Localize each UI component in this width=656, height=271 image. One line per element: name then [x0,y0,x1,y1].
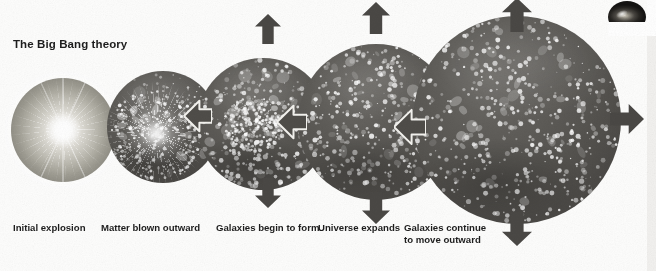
galaxy-core [616,8,630,19]
stage-caption-initial-explosion: Initial explosion [13,222,86,234]
expansion-arrow-up-stage3 [255,14,281,48]
inset-white-mask-vertical [647,0,656,26]
stage-transition-arrow-3-to-2 [277,104,307,144]
stage-caption-matter-blown-outward: Matter blown outward [101,222,200,234]
stage-caption-universe-expands: Universe expands [318,222,400,234]
expansion-arrow-right-stage5 [610,104,644,138]
matter-burst-core [120,98,192,170]
stage-caption-galaxies-begin-to-form: Galaxies begin to form [216,222,319,234]
page-title: The Big Bang theory [13,38,127,50]
explosion-core [45,112,81,148]
stage-sphere-galaxies-continue-to-move-outward [413,16,621,224]
expansion-arrow-down-stage3 [255,178,281,212]
stage-caption-galaxies-continue-to-move-outward: Galaxies continue to move outward [404,222,486,245]
stage-transition-arrow-4-to-3 [394,108,426,150]
expansion-arrow-up-stage5 [502,0,532,36]
expansion-arrow-down-stage5 [502,212,532,250]
expansion-arrow-up-stage4 [362,2,390,38]
stage-sphere-initial-explosion [11,78,115,182]
stage-transition-arrow-2-to-1 [184,99,212,137]
page-right-gutter [647,36,656,271]
big-bang-diagram: The Big Bang theory Initial explosionMat… [0,0,656,271]
star-field [413,16,621,224]
